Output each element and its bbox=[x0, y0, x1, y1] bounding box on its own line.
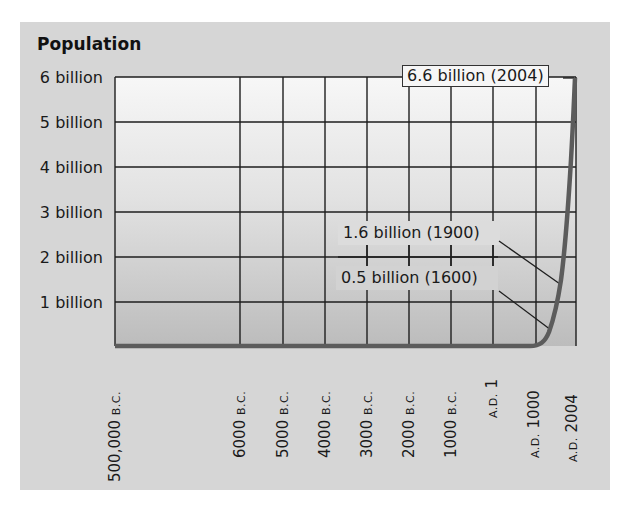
x-tick-3000-bc: 3000 B.C. bbox=[358, 391, 378, 458]
x-tick-ad-2004: A.D. 2004 bbox=[563, 394, 583, 462]
x-tick-ad-1: A.D. 1 bbox=[483, 379, 503, 418]
x-tick-5000-bc: 5000 B.C. bbox=[274, 391, 294, 458]
callout-0-5-billion-1600: 0.5 billion (1600) bbox=[338, 268, 481, 288]
x-tick-4000-bc: 4000 B.C. bbox=[316, 391, 336, 458]
x-tick-6000-bc: 6000 B.C. bbox=[231, 391, 251, 458]
callout-6-6-billion-2004: 6.6 billion (2004) bbox=[402, 65, 549, 87]
x-tick-2000-bc: 2000 B.C. bbox=[400, 391, 420, 458]
callout-1-6-billion-1900: 1.6 billion (1900) bbox=[340, 223, 483, 243]
x-tick-500000-bc: 500,000 B.C. bbox=[106, 391, 126, 482]
x-tick-ad-1000: A.D. 1000 bbox=[525, 390, 545, 458]
x-tick-1000-bc: 1000 B.C. bbox=[442, 391, 462, 458]
